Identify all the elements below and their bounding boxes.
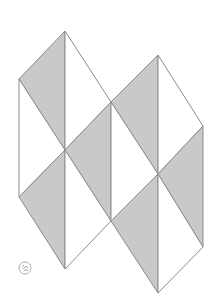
diagram-canvas <box>0 0 216 308</box>
triangle-faces <box>19 31 203 293</box>
triangle-net-diagram <box>0 0 216 308</box>
logo-icon <box>19 262 31 274</box>
